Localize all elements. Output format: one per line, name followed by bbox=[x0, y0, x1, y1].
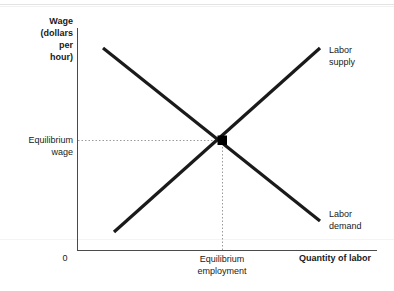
labor-supply-label: Labor supply bbox=[329, 44, 391, 68]
equilibrium-wage-label: Equilibrium wage bbox=[5, 134, 73, 158]
labor-demand-label: Labor demand bbox=[329, 208, 391, 232]
equilibrium-point-marker bbox=[218, 136, 228, 146]
equilibrium-employment-label: Equilibrium employment bbox=[172, 253, 272, 277]
x-axis-label: Quantity of labor bbox=[299, 253, 371, 264]
labor-market-equilibrium-figure: Wage (dollars per hour) Equilibrium wage… bbox=[0, 0, 394, 291]
labor-demand-curve bbox=[103, 48, 320, 221]
origin-label: 0 bbox=[57, 253, 73, 264]
y-axis-label: Wage (dollars per hour) bbox=[13, 15, 73, 63]
